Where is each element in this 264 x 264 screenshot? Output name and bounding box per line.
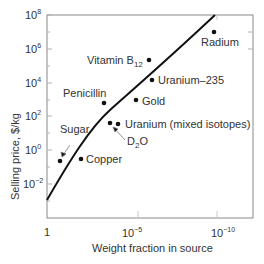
point-penicillin (102, 101, 107, 106)
y-tick-1e2: 102 (25, 109, 41, 122)
point-gold (134, 98, 139, 103)
y-tick-labels: 108 106 104 102 100 10−2 (23, 8, 43, 190)
label-gold: Gold (142, 95, 165, 107)
y-tick-1e-2: 10−2 (23, 177, 43, 190)
label-penicillin: Penicillin (63, 87, 106, 99)
chart: 108 106 104 102 100 10−2 1 10−5 10−10 We… (0, 0, 264, 264)
label-sugar: Sugar (60, 123, 90, 135)
y-axis-label: Selling price, $/kg (9, 113, 21, 200)
x-tick-1e-10: 10−10 (211, 226, 235, 239)
label-uranium-mixed: Uranium (mixed isotopes) (125, 118, 250, 130)
point-sugar (58, 159, 63, 164)
point-labels: Radium Vitamin B12 Uranium–235 Gold Peni… (60, 36, 250, 165)
label-uranium-235: Uranium–235 (158, 74, 224, 86)
y-tick-1e6: 106 (25, 42, 41, 55)
label-vitamin-b12: Vitamin B12 (87, 54, 143, 69)
y-tick-1e4: 104 (25, 76, 41, 89)
label-radium: Radium (201, 36, 239, 48)
y-tick-1e8: 108 (25, 8, 41, 21)
x-tick-1e-5: 10−5 (122, 226, 142, 239)
trend-line (47, 15, 215, 200)
chart-svg: 108 106 104 102 100 10−2 1 10−5 10−10 We… (0, 0, 264, 264)
sugar-arrow-head (61, 152, 66, 157)
label-d2o: D2O (127, 135, 148, 150)
point-radium (212, 30, 217, 35)
point-uranium-mixed (116, 122, 121, 127)
label-copper: Copper (86, 153, 122, 165)
y-tick-1e0: 100 (25, 143, 41, 156)
point-uranium-235 (150, 78, 155, 83)
point-copper (79, 157, 84, 162)
x-tick-1: 1 (44, 226, 50, 238)
point-d2o (108, 121, 113, 126)
x-tick-labels: 1 10−5 10−10 (44, 226, 235, 239)
point-vitamin-b12 (147, 58, 152, 63)
x-axis-label: Weight fraction in source (92, 242, 213, 254)
